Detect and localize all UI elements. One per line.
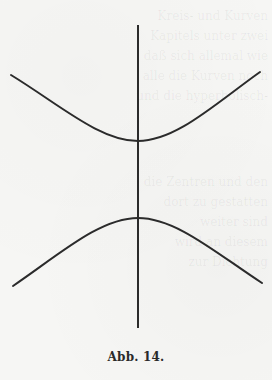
- book-page: Kreis- und Kurven Kapitels unter zwei da…: [0, 0, 272, 380]
- figure-caption: Abb. 14.: [0, 350, 272, 364]
- figure-diagram: [0, 0, 272, 380]
- upper-curve-branch: [11, 72, 260, 141]
